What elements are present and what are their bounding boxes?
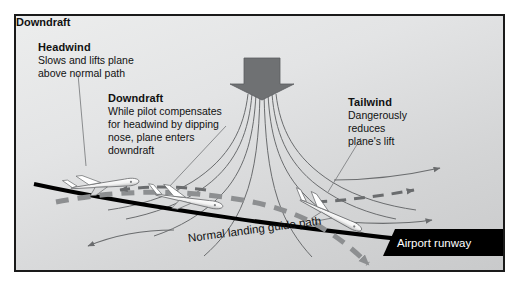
label-tailwind-line-1: reduces [348, 122, 407, 135]
label-headwind: Headwind Slows and lifts plane above nor… [38, 41, 134, 80]
label-downdraft-body-heading: Downdraft [108, 92, 222, 105]
leader-line-headwind [78, 74, 86, 166]
diagram-panel: Headwind Slows and lifts plane above nor… [14, 14, 505, 272]
wind-arrow-headwind [120, 187, 206, 190]
label-tailwind-line-2: plane's lift [348, 135, 407, 148]
label-downdraft-body-line-3: downdraft [108, 144, 222, 157]
label-downdraft-body-line-2: nose, plane enters [108, 131, 222, 144]
label-headwind-line-0: Slows and lifts plane [38, 54, 134, 67]
label-tailwind-heading: Tailwind [348, 96, 407, 109]
wind-arrow-headwind-lower [88, 230, 174, 246]
label-downdraft-body-line-1: for headwind by dipping [108, 118, 222, 131]
downdraft-arrow-icon [230, 58, 294, 100]
label-headwind-heading: Headwind [38, 41, 134, 54]
wind-arrow-tailwind [316, 190, 414, 202]
label-downdraft-body-line-0: While pilot compensates [108, 105, 222, 118]
label-tailwind-line-0: Dangerously [348, 109, 407, 122]
wind-arrow-tailwind-lower [346, 220, 432, 223]
wind-arrow-tailwind-upper [334, 168, 440, 180]
label-tailwind: Tailwind Dangerously reduces plane's lif… [348, 96, 407, 148]
diagram-canvas: Headwind Slows and lifts plane above nor… [0, 0, 520, 291]
label-headwind-line-1: above normal path [38, 67, 134, 80]
label-airport-runway: Airport runway [383, 229, 503, 256]
label-downdraft-body: Downdraft While pilot compensates for he… [108, 92, 222, 157]
